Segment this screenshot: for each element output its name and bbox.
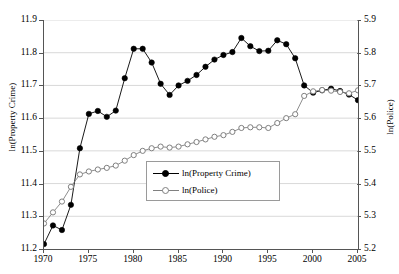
data-point: [320, 87, 325, 92]
data-point: [50, 223, 55, 228]
data-point: [248, 125, 253, 130]
data-point: [266, 125, 271, 130]
legend-item-property-crime: ln(Property Crime): [153, 166, 251, 180]
data-point: [86, 111, 91, 116]
data-point: [122, 158, 127, 163]
y-axis-left-tick-label: 11.5: [0, 145, 37, 155]
data-point: [284, 42, 289, 47]
y-axis-right-tick-label: 5.5: [364, 145, 399, 155]
data-point: [275, 120, 280, 125]
data-point: [203, 64, 208, 69]
data-point: [194, 72, 199, 77]
series-line: [44, 90, 358, 223]
y-axis-right-tick-label: 5.4: [364, 178, 399, 188]
plot-area: [43, 20, 359, 250]
data-point: [248, 43, 253, 48]
data-point: [149, 146, 154, 151]
data-point: [185, 142, 190, 147]
data-point: [122, 76, 127, 81]
data-point: [239, 35, 244, 40]
data-point: [311, 89, 316, 94]
y-axis-right-tick-label: 5.7: [364, 79, 399, 89]
data-point: [230, 129, 235, 134]
y-axis-right-tick-label: 5.2: [364, 243, 399, 253]
data-point: [239, 125, 244, 130]
y-axis-right-tick-label: 5.6: [364, 112, 399, 122]
data-point: [158, 144, 163, 149]
data-point: [104, 114, 109, 119]
data-point: [257, 125, 262, 130]
data-point: [50, 210, 55, 215]
data-point: [176, 83, 181, 88]
data-point: [212, 134, 217, 139]
data-point: [301, 83, 306, 88]
data-point: [230, 49, 235, 54]
y-axis-left-tick-label: 11.2: [0, 243, 37, 253]
data-point: [203, 137, 208, 142]
data-point: [355, 88, 358, 93]
y-axis-right-tick-label: 5.3: [364, 210, 399, 220]
data-point: [293, 56, 298, 61]
data-point: [176, 144, 181, 149]
y-axis-left-tick-label: 11.9: [0, 14, 37, 24]
data-point: [355, 97, 358, 102]
data-point: [346, 91, 351, 96]
data-point: [131, 153, 136, 158]
x-axis-tick-label: 1990: [202, 254, 242, 264]
data-point: [44, 241, 47, 246]
y-axis-left-tick-label: 11.3: [0, 210, 37, 220]
data-point: [68, 202, 73, 207]
x-axis-tick-label: 2005: [337, 254, 377, 264]
data-point: [167, 92, 172, 97]
plot-svg: [44, 20, 358, 249]
legend-item-police: ln(Police): [153, 183, 218, 197]
y-axis-right-tick-label: 5.9: [364, 14, 399, 24]
data-point: [104, 165, 109, 170]
data-point: [140, 148, 145, 153]
y-axis-left-tick-label: 11.4: [0, 178, 37, 188]
data-point: [44, 221, 47, 226]
y-axis-left-tick-label: 11.7: [0, 79, 37, 89]
data-point: [167, 145, 172, 150]
y-axis-right-tick-label: 5.8: [364, 47, 399, 57]
legend-marker-open-circle-icon: [153, 184, 179, 196]
data-point: [212, 57, 217, 62]
data-point: [221, 133, 226, 138]
legend-label: ln(Police): [182, 185, 218, 195]
data-point: [59, 199, 64, 204]
data-point: [328, 88, 333, 93]
x-axis-tick-label: 1995: [247, 254, 287, 264]
legend-label: ln(Property Crime): [182, 168, 251, 178]
x-axis-tick-label: 1970: [23, 254, 63, 264]
x-axis-tick-label: 1980: [113, 254, 153, 264]
data-point: [158, 81, 163, 86]
data-point: [257, 48, 262, 53]
data-point: [140, 46, 145, 51]
gridlines: [44, 20, 358, 249]
data-point: [275, 38, 280, 43]
data-point: [293, 112, 298, 117]
data-point: [86, 169, 91, 174]
x-axis-tick-label: 1985: [158, 254, 198, 264]
data-point: [131, 46, 136, 51]
x-axis-tick-label: 2000: [292, 254, 332, 264]
legend: ln(Property Crime) ln(Police): [146, 161, 280, 201]
data-point: [337, 89, 342, 94]
data-point: [266, 48, 271, 53]
data-point: [221, 52, 226, 57]
x-axis-tick-label: 1975: [68, 254, 108, 264]
data-point: [149, 60, 154, 65]
data-point: [77, 146, 82, 151]
data-point: [302, 93, 307, 98]
data-point: [113, 163, 118, 168]
legend-marker-filled-circle-icon: [153, 167, 179, 179]
data-point: [284, 116, 289, 121]
data-point: [185, 78, 190, 83]
data-point: [68, 184, 73, 189]
data-point: [77, 172, 82, 177]
series-layer: [44, 35, 358, 247]
chart-figure: ln(Property Crime) ln(Police) 11.211.311…: [0, 0, 399, 274]
y-axis-left-tick-label: 11.6: [0, 112, 37, 122]
y-axis-left-tick-label: 11.8: [0, 47, 37, 57]
data-point: [194, 139, 199, 144]
